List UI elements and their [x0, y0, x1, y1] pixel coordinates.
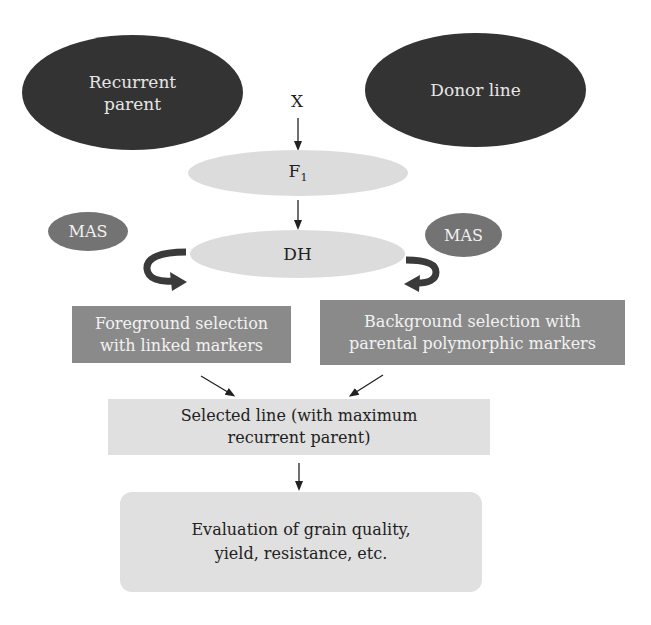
foreground-selection-box: Foreground selection with linked markers: [72, 306, 291, 363]
evaluation-line1: Evaluation of grain quality,: [191, 518, 410, 542]
foreground-line2: with linked markers: [100, 335, 263, 357]
donor-line-label: Donor line: [430, 79, 520, 101]
dh-node: DH: [190, 230, 405, 278]
mas-right-label: MAS: [444, 226, 483, 245]
selected-line-box: Selected line (with maximum recurrent pa…: [108, 399, 490, 455]
evaluation-box: Evaluation of grain quality, yield, resi…: [120, 492, 482, 592]
recurrent-parent-line2: parent: [104, 93, 161, 115]
mas-left-label: MAS: [69, 222, 108, 241]
curved-arrow-right-icon: [404, 260, 436, 292]
curved-arrow-left-icon: [147, 252, 187, 291]
foreground-line1: Foreground selection: [95, 313, 268, 335]
dh-label: DH: [283, 244, 311, 264]
background-line2: parental polymorphic markers: [349, 333, 596, 355]
selected-line1: Selected line (with maximum: [181, 405, 418, 427]
background-line1: Background selection with: [364, 311, 581, 333]
recurrent-parent-line1: Recurrent: [89, 71, 176, 93]
donor-line-node: Donor line: [365, 33, 586, 147]
background-selection-box: Background selection with parental polym…: [320, 300, 625, 365]
arrow-foreground-to-selected: [201, 376, 231, 394]
f1-label: F1: [289, 161, 308, 184]
f1-node: F1: [188, 150, 408, 196]
evaluation-line2: yield, resistance, etc.: [215, 542, 388, 566]
mas-right-node: MAS: [425, 213, 502, 257]
mas-left-node: MAS: [48, 212, 128, 251]
recurrent-parent-node: Recurrent parent: [22, 35, 243, 150]
cross-symbol: X: [291, 91, 303, 111]
arrow-background-to-selected: [353, 375, 383, 394]
selected-line2: recurrent parent): [228, 427, 371, 449]
